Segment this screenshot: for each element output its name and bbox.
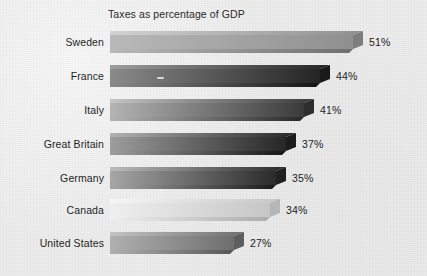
bar-front-face — [110, 236, 234, 250]
bar-italy — [110, 99, 314, 121]
bar-bottom-shadow — [110, 217, 270, 221]
bar-canada — [110, 199, 280, 221]
bar-category-label: Germany — [60, 172, 104, 184]
bar-front-face — [110, 69, 320, 83]
bar-great-britain — [110, 133, 296, 155]
bar-category-label: France — [71, 70, 104, 82]
bar-value-label: 51% — [369, 36, 390, 48]
bar-top-face — [110, 167, 286, 171]
bar-bottom-shadow — [110, 83, 320, 87]
bar-front-face — [110, 203, 270, 217]
bar-sweden — [110, 31, 363, 53]
bar-bottom-shadow — [110, 250, 234, 254]
bar-bottom-shadow — [110, 117, 304, 121]
bar-front-face — [110, 171, 276, 185]
bar-category-label: Canada — [67, 204, 104, 216]
bar-germany — [110, 167, 286, 189]
bar-top-face — [110, 199, 280, 203]
bar-france — [110, 65, 330, 87]
bar-bottom-shadow — [110, 151, 286, 155]
bar-front-face — [110, 137, 286, 151]
bar-chart-plot-area: Sweden51%France44%Italy41%Great Britain3… — [0, 0, 427, 276]
bar-front-face — [110, 103, 304, 117]
bar-top-face — [110, 232, 244, 236]
bar-value-label: 35% — [292, 172, 313, 184]
bar-category-label: Sweden — [65, 36, 104, 48]
bar-top-face — [110, 65, 330, 69]
bar-value-label: 37% — [302, 138, 323, 150]
bar-value-label: 44% — [336, 70, 357, 82]
bar-bottom-shadow — [110, 49, 353, 53]
bar-top-face — [110, 133, 296, 137]
bar-top-face — [110, 99, 314, 103]
bar-value-label: 41% — [320, 104, 341, 116]
bar-category-label: United States — [40, 237, 104, 249]
bar-category-label: Great Britain — [44, 138, 104, 150]
bar-bottom-shadow — [110, 185, 276, 189]
bar-value-label: 27% — [250, 237, 271, 249]
bar-value-label: 34% — [286, 204, 307, 216]
bar-front-face — [110, 35, 353, 49]
chart-screenshot: Taxes as percentage of GDP Sweden51%Fran… — [0, 0, 427, 276]
bar-united-states — [110, 232, 244, 254]
bar-category-label: Italy — [84, 104, 104, 116]
bar-top-face — [110, 31, 363, 35]
